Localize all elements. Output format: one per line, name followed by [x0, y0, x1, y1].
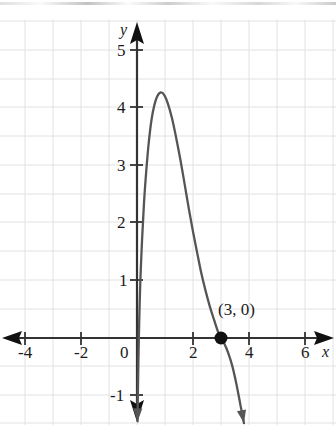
marked-point-3-0 [215, 332, 228, 345]
grid-lines [0, 20, 336, 425]
x-tick-label-6: 6 [301, 344, 310, 361]
y-axis-label: y [120, 22, 127, 38]
x-axis-label: x [322, 344, 329, 360]
y-tick-label-4: 4 [117, 99, 126, 116]
coordinate-plane [0, 0, 336, 425]
x-axis [2, 331, 334, 345]
y-tick-label-3: 3 [117, 157, 126, 174]
x-tick-label-4: 4 [245, 344, 254, 361]
y-tick-label-2: 2 [117, 214, 126, 231]
point-annotation-3-0: (3, 0) [218, 301, 255, 318]
x-tick-label--2: -2 [74, 344, 88, 361]
graph-figure: -4 -2 2 4 6 5 4 3 2 1 -1 0 y x (3, 0) [0, 0, 336, 425]
y-tick-label-5: 5 [117, 42, 126, 59]
x-tick-label-2: 2 [189, 344, 198, 361]
origin-label: 0 [120, 344, 129, 361]
function-curve [138, 92, 244, 423]
y-tick-label-1: 1 [119, 272, 128, 289]
curve-left-arrow [133, 408, 142, 421]
y-tick-label--1: -1 [110, 387, 124, 404]
x-tick-label--4: -4 [18, 344, 32, 361]
